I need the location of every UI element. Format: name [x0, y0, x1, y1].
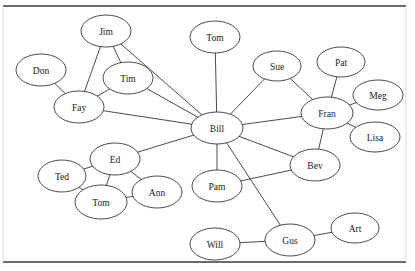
node-art[interactable]: Art: [331, 213, 379, 243]
edge-jim-tim: [113, 46, 121, 62]
node-label-tombot: Tom: [92, 198, 110, 208]
node-label-ann: Ann: [149, 188, 166, 198]
node-label-fran: Fran: [318, 109, 336, 119]
node-tombot[interactable]: Tom: [75, 185, 127, 219]
node-label-bev: Bev: [307, 161, 323, 171]
node-label-art: Art: [349, 224, 362, 234]
node-jim[interactable]: Jim: [81, 15, 131, 47]
node-lisa[interactable]: Lisa: [350, 122, 400, 152]
edge-fran-bill: [242, 116, 301, 124]
node-fay[interactable]: Fay: [54, 91, 104, 123]
edge-tim-bill: [147, 89, 198, 118]
node-label-pam: Pam: [209, 182, 227, 192]
edge-fay-bill: [103, 111, 191, 124]
node-tomtop[interactable]: Tom: [190, 21, 240, 53]
node-label-gus: Gus: [282, 236, 298, 246]
edge-meg-fran: [350, 103, 357, 105]
edge-sue-bill: [230, 79, 264, 114]
node-ed[interactable]: Ed: [90, 143, 140, 175]
node-label-tim: Tim: [120, 74, 136, 84]
node-label-don: Don: [33, 66, 50, 76]
node-label-ed: Ed: [110, 155, 121, 165]
edge-lisa-fran: [347, 123, 356, 127]
edge-gus-will: [240, 241, 265, 242]
node-label-ted: Ted: [55, 172, 69, 182]
edge-tombot-ann: [126, 196, 133, 197]
edge-ed-ann: [131, 171, 141, 179]
node-label-sue: Sue: [270, 62, 284, 72]
node-gus[interactable]: Gus: [265, 224, 315, 256]
edge-ed-tombot: [106, 175, 109, 186]
node-label-jim: Jim: [99, 27, 113, 37]
node-label-fay: Fay: [72, 103, 87, 113]
edge-jim-fay: [85, 47, 101, 92]
edge-tomtop-bill: [215, 53, 216, 112]
node-ted[interactable]: Ted: [38, 160, 86, 192]
node-ann[interactable]: Ann: [132, 176, 182, 208]
node-don[interactable]: Don: [16, 54, 66, 86]
edge-tim-fay: [97, 89, 109, 96]
edge-don-fay: [55, 83, 66, 93]
node-label-lisa: Lisa: [367, 133, 384, 143]
node-sue[interactable]: Sue: [253, 51, 301, 81]
node-label-tomtop: Tom: [206, 33, 224, 43]
node-pam[interactable]: Pam: [192, 170, 242, 202]
node-fran[interactable]: Fran: [301, 97, 353, 129]
node-bev[interactable]: Bev: [290, 149, 340, 181]
node-bill[interactable]: Bill: [191, 112, 243, 144]
node-will[interactable]: Will: [190, 228, 240, 260]
node-label-meg: Meg: [369, 91, 387, 101]
node-tim[interactable]: Tim: [103, 62, 153, 94]
node-label-will: Will: [207, 240, 224, 250]
edge-ed-bill: [138, 135, 194, 152]
network-graph: JimTomDonTimSuePatFayBillFranMegLisaEdBe…: [0, 0, 415, 271]
edge-ted-tombot: [79, 187, 83, 190]
node-label-pat: Pat: [335, 58, 348, 68]
edge-fran-bev: [319, 129, 324, 149]
edge-gus-art: [314, 232, 332, 235]
edge-pat-fran: [331, 77, 337, 97]
edge-bev-bill: [239, 136, 293, 157]
node-meg[interactable]: Meg: [353, 80, 403, 110]
node-layer: JimTomDonTimSuePatFayBillFranMegLisaEdBe…: [16, 15, 403, 260]
node-pat[interactable]: Pat: [317, 47, 365, 77]
node-label-bill: Bill: [210, 124, 225, 134]
edge-sue-fran: [290, 78, 312, 99]
diagram-canvas: JimTomDonTimSuePatFayBillFranMegLisaEdBe…: [0, 0, 415, 271]
edge-ed-ted: [84, 166, 93, 169]
